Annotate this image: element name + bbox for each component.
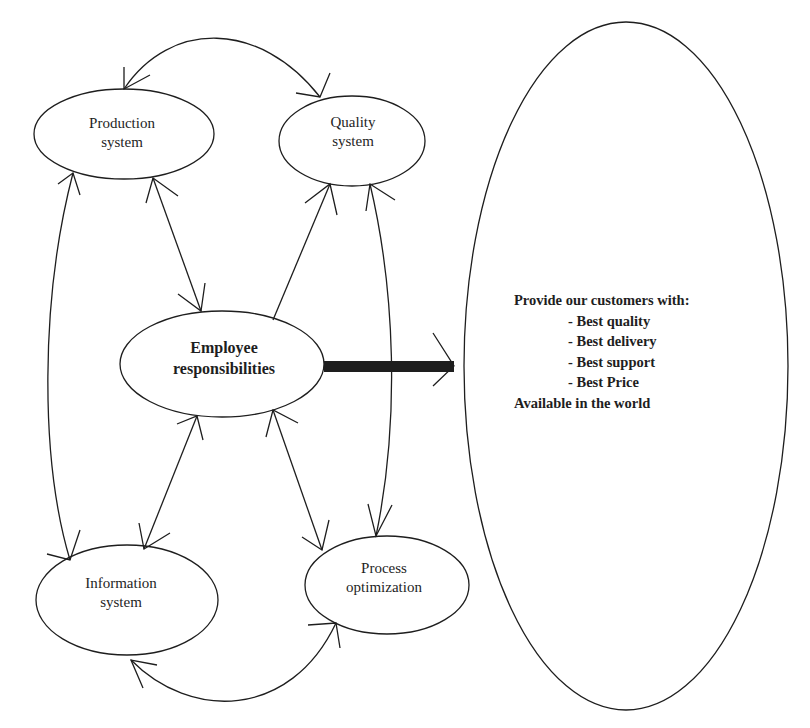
goal-item: - Best support <box>514 352 689 373</box>
goal-item: - Best quality <box>514 311 689 332</box>
connector-information-process <box>131 623 336 701</box>
arrowhead-icon <box>305 184 337 215</box>
label-line: Employee <box>173 337 275 358</box>
label-line: Information <box>85 574 157 593</box>
label-production-system: Production system <box>89 114 155 152</box>
goal-footer: Available in the world <box>514 393 689 414</box>
goal-item: - Best delivery <box>514 331 689 352</box>
arrowhead-icon <box>368 504 392 536</box>
connector-quality-process <box>370 184 392 536</box>
goal-item: - Best Price <box>514 372 689 393</box>
label-line: system <box>85 593 157 612</box>
arrowhead-icon <box>124 67 150 89</box>
connector-employee-process <box>273 410 322 550</box>
label-line: responsibilities <box>173 358 275 379</box>
label-line: system <box>331 132 376 151</box>
arrowhead-icon <box>139 523 170 549</box>
connector-employee-quality <box>273 184 330 320</box>
connector-production-employee <box>153 178 201 311</box>
label-quality-system: Quality system <box>331 113 376 151</box>
goal-heading: Provide our customers with: <box>514 290 689 311</box>
label-line: Quality <box>331 113 376 132</box>
customer-goal-text: Provide our customers with: - Best quali… <box>514 290 689 413</box>
connector-employee-information <box>144 416 197 549</box>
connector-production-information <box>48 173 73 560</box>
label-line: Process <box>346 559 422 578</box>
label-employee-responsibilities: Employee responsibilities <box>173 337 275 379</box>
label-line: optimization <box>346 578 422 597</box>
main-arrow-head-icon <box>433 333 454 386</box>
label-information-system: Information system <box>85 574 157 612</box>
label-line: Production <box>89 114 155 133</box>
connector-production-quality <box>124 38 320 97</box>
label-line: system <box>89 133 155 152</box>
label-process-optimization: Process optimization <box>346 559 422 597</box>
arrowhead-icon <box>178 283 205 311</box>
arrowhead-icon <box>177 416 203 440</box>
arrowhead-icon <box>146 178 178 203</box>
arrowhead-icon <box>302 520 329 550</box>
arrowhead-icon <box>266 410 298 437</box>
main-arrow-shaft <box>324 361 454 372</box>
